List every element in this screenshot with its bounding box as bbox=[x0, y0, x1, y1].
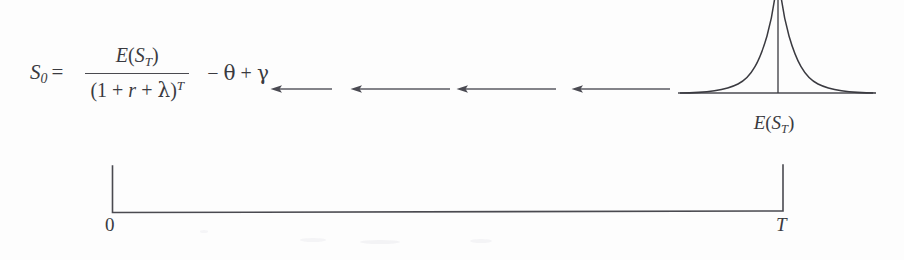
numerator-function: E bbox=[116, 44, 128, 66]
scan-artifact bbox=[200, 230, 208, 233]
distribution-label-subscript: T bbox=[781, 122, 788, 136]
scan-artifact bbox=[360, 240, 400, 244]
denominator-exponent: T bbox=[177, 78, 184, 93]
discount-arrow-2 bbox=[350, 82, 452, 96]
gamma-symbol: γ bbox=[257, 61, 269, 85]
terminal-value-distribution bbox=[666, 0, 904, 102]
adjustment-minus-sign: − bbox=[207, 62, 223, 84]
pricing-formula: S0 = E(ST) (1 + r + λ)T − θ + γ bbox=[30, 44, 269, 102]
denominator-lambda: λ bbox=[157, 78, 170, 102]
numerator-open-paren: ( bbox=[128, 44, 135, 66]
fraction-denominator: (1 + r + λ)T bbox=[86, 74, 188, 102]
scan-artifact bbox=[470, 239, 492, 243]
fraction-numerator: E(ST) bbox=[108, 44, 167, 73]
denominator-open: (1 + bbox=[90, 79, 128, 101]
denominator-close: ) bbox=[170, 79, 177, 101]
discount-arrow-3 bbox=[456, 82, 558, 96]
discount-arrow-1 bbox=[270, 82, 334, 96]
discount-arrow-4 bbox=[571, 82, 672, 96]
figure-canvas: S0 = E(ST) (1 + r + λ)T − θ + γ bbox=[0, 0, 904, 260]
formula-lhs-symbol: S bbox=[30, 60, 41, 84]
numerator-close-paren: ) bbox=[152, 44, 159, 66]
denominator-rate: r bbox=[128, 79, 136, 101]
scan-artifact bbox=[300, 238, 326, 242]
timeline-bracket-path bbox=[113, 165, 784, 213]
distribution-label-variable: S bbox=[772, 112, 782, 133]
timeline-start-label: 0 bbox=[105, 214, 115, 236]
formula-adjustments: − θ + γ bbox=[207, 61, 269, 85]
formula-lhs-subscript: 0 bbox=[41, 70, 48, 85]
numerator-variable-subscript: T bbox=[145, 54, 152, 69]
distribution-label: E(ST) bbox=[666, 112, 882, 137]
numerator-variable: S bbox=[135, 44, 145, 66]
formula-equals-sign: = bbox=[51, 60, 63, 85]
formula-lhs: S0 bbox=[30, 60, 47, 87]
timeline-end-label: T bbox=[776, 214, 787, 236]
timeline-bracket bbox=[100, 160, 800, 220]
theta-symbol: θ bbox=[224, 61, 236, 85]
distribution-label-function: E bbox=[754, 112, 766, 133]
adjustment-plus-sign: + bbox=[236, 62, 257, 84]
formula-fraction: E(ST) (1 + r + λ)T bbox=[85, 44, 189, 102]
distribution-label-close-paren: ) bbox=[788, 112, 794, 133]
denominator-plus: + bbox=[136, 79, 157, 101]
